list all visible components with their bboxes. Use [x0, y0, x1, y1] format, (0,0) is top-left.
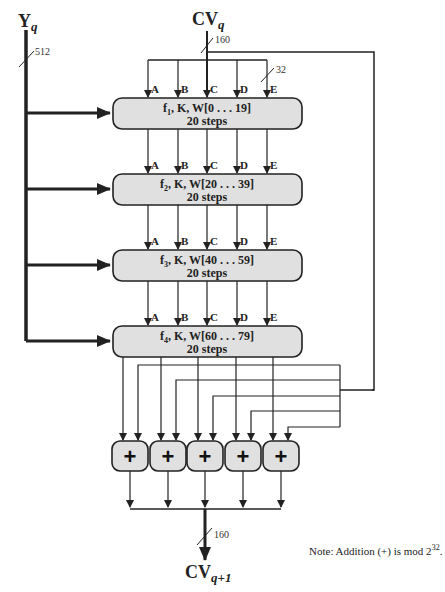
svg-text:20 steps: 20 steps: [187, 266, 228, 280]
register-width: 32: [276, 64, 286, 75]
adder-5: +: [275, 444, 288, 469]
svg-text:E: E: [270, 159, 277, 171]
svg-text:C: C: [210, 311, 218, 323]
svg-text:20 steps: 20 steps: [187, 114, 228, 128]
round-4-box: f4, K, W[60 . . . 79] 20 steps: [113, 326, 302, 357]
svg-text:D: D: [240, 235, 248, 247]
svg-text:A: A: [151, 235, 159, 247]
svg-text:A: A: [151, 159, 159, 171]
cvq1-label: CVq+1: [185, 562, 231, 585]
yq-width: 512: [35, 46, 50, 57]
svg-text:D: D: [240, 159, 248, 171]
sha1-compression-diagram: Yq 512 CVq 160 32 A B C D E f1, K, W[0 .: [0, 0, 445, 592]
round-1-box: f1, K, W[0 . . . 19] 20 steps: [113, 98, 302, 129]
svg-text:20 steps: 20 steps: [187, 342, 228, 356]
svg-text:B: B: [181, 311, 189, 323]
svg-text:A: A: [151, 83, 159, 95]
round-3-inputs: A B C D E: [148, 205, 277, 249]
svg-text:A: A: [151, 311, 159, 323]
message-block-input: Yq 512: [18, 11, 110, 341]
output-width: 160: [214, 529, 229, 540]
round-3-box: f3, K, W[40 . . . 59] 20 steps: [113, 250, 302, 281]
svg-text:E: E: [270, 311, 277, 323]
svg-text:C: C: [210, 235, 218, 247]
svg-text:C: C: [210, 83, 218, 95]
adder-output-lines: 160: [130, 471, 281, 560]
cvq-label: CVq: [192, 9, 225, 32]
adder-3: +: [199, 444, 212, 469]
adder-4: +: [237, 444, 250, 469]
round-2-inputs: A B C D E: [148, 129, 277, 173]
adder-1: +: [124, 444, 137, 469]
round-2-box: f2, K, W[20 . . . 39] 20 steps: [113, 174, 302, 205]
svg-text:E: E: [270, 83, 277, 95]
svg-text:C: C: [210, 159, 218, 171]
adders: + + + + +: [112, 441, 299, 471]
cvq-width: 160: [215, 34, 230, 45]
svg-text:D: D: [240, 311, 248, 323]
note-text: Note: Addition (+) is mod 232.: [309, 543, 443, 558]
svg-text:20 steps: 20 steps: [187, 190, 228, 204]
svg-text:B: B: [181, 235, 189, 247]
svg-text:B: B: [181, 83, 189, 95]
svg-text:D: D: [240, 83, 248, 95]
round-4-inputs: A B C D E: [148, 281, 277, 325]
feed-forward-lines: [138, 365, 374, 440]
adder-2: +: [162, 444, 175, 469]
round-1-inputs: A B C D E: [148, 60, 277, 97]
svg-text:B: B: [181, 159, 189, 171]
svg-text:E: E: [270, 235, 277, 247]
yq-label: Yq: [18, 11, 38, 34]
